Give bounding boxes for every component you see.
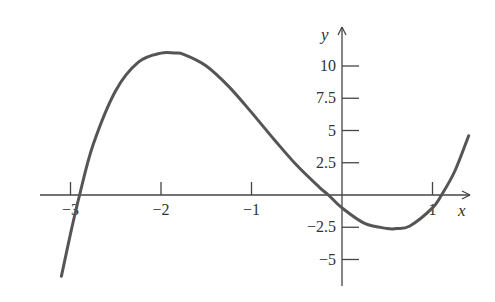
function-plot: −3−2−11107.552.5−2.5−5 x y — [0, 0, 495, 302]
x-tick-label: −1 — [243, 201, 260, 218]
y-axis-label: y — [319, 25, 329, 44]
x-axis-label: x — [457, 201, 466, 220]
y-tick-label: −2.5 — [307, 218, 336, 235]
y-tick-label: 7.5 — [316, 89, 336, 106]
function-curve — [61, 52, 468, 276]
y-tick-label: 10 — [320, 57, 336, 74]
y-tick-label: 2.5 — [316, 154, 336, 171]
x-tick-label: −2 — [152, 201, 169, 218]
y-tick-label: −5 — [319, 251, 336, 268]
y-tick-label: 5 — [328, 122, 336, 139]
axes — [40, 27, 470, 286]
